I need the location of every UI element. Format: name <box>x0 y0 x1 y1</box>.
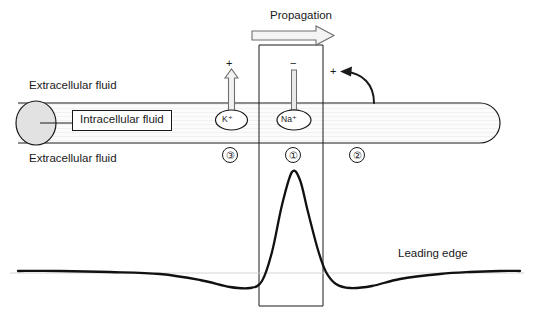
extracellular-fluid-top-label: Extracellular fluid <box>29 80 117 92</box>
potassium-charge-sign: + <box>226 58 232 69</box>
figure-canvas: Extracellular fluid Extracellular fluid … <box>0 0 534 317</box>
sodium-ion-label: Na⁺ <box>281 114 297 124</box>
region-number-1: ① <box>286 150 300 161</box>
action-potential-trace <box>18 171 520 289</box>
sodium-charge-sign: − <box>290 58 296 69</box>
region-number-2: ② <box>350 150 364 161</box>
propagation-arrow-shape <box>252 26 334 45</box>
propagation-label: Propagation <box>270 10 332 22</box>
propagation-arrow-icon <box>252 26 334 45</box>
extracellular-fluid-bottom-label: Extracellular fluid <box>29 153 117 165</box>
intracellular-fluid-label: Intracellular fluid <box>72 110 172 131</box>
sodium-arrow-shaft <box>292 70 297 110</box>
leading-edge-label: Leading edge <box>398 248 468 260</box>
local-current-arrow-icon <box>340 67 374 104</box>
potassium-ion-label: K⁺ <box>222 114 233 124</box>
local-current-arrow-head <box>340 67 352 77</box>
local-current-charge-sign: + <box>330 66 336 77</box>
region-number-3: ③ <box>223 150 237 161</box>
local-current-arrow-path <box>346 72 374 103</box>
